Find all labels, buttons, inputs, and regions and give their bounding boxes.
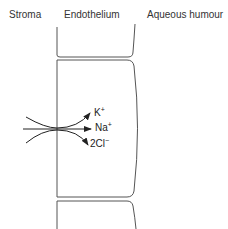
sodium-ion-label: Na+ — [95, 122, 112, 133]
endothelium-diagram — [0, 0, 228, 229]
bottom-cell-outline — [57, 201, 136, 229]
k-arrow — [26, 113, 90, 128]
chloride-ion-label: 2Cl− — [90, 138, 109, 149]
potassium-ion-label: K+ — [94, 107, 105, 118]
top-cell-outline — [57, 24, 135, 57]
